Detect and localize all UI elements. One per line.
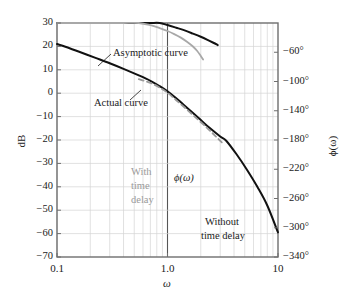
- y2-tick-label: −340°: [283, 250, 309, 261]
- annotation-asymptotic-curve: Asymptotic curve: [113, 47, 188, 58]
- y-tick-label: −50: [22, 203, 53, 214]
- y2-tick-label: −220°: [283, 162, 309, 173]
- y2-tick-label: −60°: [283, 45, 304, 56]
- y-tick-label: −20: [22, 133, 53, 144]
- y2-axis-title-phi: ϕ(ω): [326, 126, 338, 166]
- curve-actual-curve: [139, 79, 222, 142]
- y2-tick-label: −260°: [283, 192, 309, 203]
- y-tick-label: −70: [22, 250, 53, 261]
- x-tick-label: 10: [258, 262, 298, 274]
- annotation-with-time-delay-line3: delay: [131, 194, 154, 205]
- annotation-with-time-delay-line2: time: [131, 180, 150, 191]
- y2-tick-label: −180°: [283, 133, 309, 144]
- annotation-without-time-delay-line2: time delay: [201, 230, 245, 241]
- y-tick-label: 10: [22, 63, 53, 74]
- annotation-phi-omega: ϕ(ω): [174, 172, 194, 183]
- annotation-without-time-delay-line1: Without: [205, 216, 239, 227]
- y-tick-label: −30: [22, 156, 53, 167]
- annotation-actual-curve: Actual curve: [94, 97, 148, 108]
- x-axis-title-omega: ω: [152, 277, 182, 289]
- y2-tick-label: −140°: [283, 104, 309, 115]
- curve-without-time-delay: [57, 23, 218, 45]
- y-tick-label: −10: [22, 110, 53, 121]
- x-tick-label: 1.0: [148, 262, 188, 274]
- x-tick-label: 0.1: [37, 262, 77, 274]
- y-tick-label: 30: [22, 16, 53, 27]
- y-tick-label: −40: [22, 180, 53, 191]
- y-tick-label: 20: [22, 39, 53, 50]
- annotation-with-time-delay-line1: With: [131, 166, 152, 177]
- y2-tick-label: −100°: [283, 75, 309, 86]
- bode-plot-figure: dB ϕ(ω) ω Asymptotic curve Actual curve …: [0, 0, 343, 295]
- y-tick-label: 0: [22, 86, 53, 97]
- y-tick-label: −60: [22, 227, 53, 238]
- grid-lines: [57, 23, 278, 257]
- y2-tick-label: −300°: [283, 221, 309, 232]
